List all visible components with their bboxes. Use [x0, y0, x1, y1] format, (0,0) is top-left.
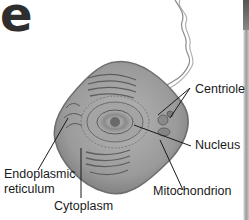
- label-endoplasmic-reticulum-line1: Endoplasmic: [4, 167, 76, 182]
- label-cytoplasm: Cytoplasm: [54, 199, 113, 214]
- label-endoplasmic-reticulum-line2: reticulum: [4, 182, 55, 197]
- label-mitochondrion: Mitochondrion: [153, 184, 232, 199]
- label-centriole: Centriole: [195, 82, 245, 97]
- label-nucleus: Nucleus: [195, 138, 240, 153]
